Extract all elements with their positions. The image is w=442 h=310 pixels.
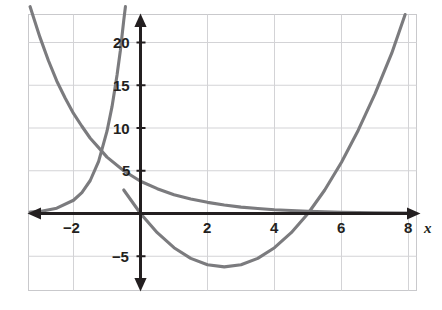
plot-frame xyxy=(29,15,417,291)
y-tick-label-15: 15 xyxy=(113,77,129,94)
x-tick-label-4: 4 xyxy=(270,219,278,236)
y-tick-label-20: 20 xyxy=(113,34,129,51)
x-tick-label-8: 8 xyxy=(404,219,412,236)
x-tick-label-2: 2 xyxy=(203,219,211,236)
y-tick-label-10: 10 xyxy=(113,120,129,137)
x-tick-label-6: 6 xyxy=(337,219,345,236)
chart-figure: −2 2 4 6 8 20 15 10 5 −5 x xyxy=(0,0,442,310)
x-axis-label: x xyxy=(424,220,432,237)
y-tick-label-5: 5 xyxy=(122,162,130,179)
coordinate-plane-plot xyxy=(0,0,442,310)
x-tick-label--2: −2 xyxy=(63,219,80,236)
y-tick-label--5: −5 xyxy=(112,248,129,265)
